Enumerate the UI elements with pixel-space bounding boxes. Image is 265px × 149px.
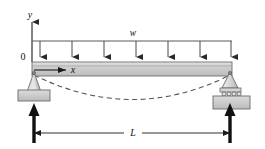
span-length-label: L: [129, 127, 136, 138]
roller-1: [222, 92, 226, 96]
right-roller-support: [213, 71, 250, 109]
left-support-base: [18, 90, 50, 101]
beam-diagram-figure: y 0 w x: [0, 0, 265, 149]
left-reaction-arrowhead: [29, 103, 40, 116]
y-axis-label: y: [27, 9, 33, 20]
distributed-load-group: [32, 41, 232, 57]
beam-body: [32, 62, 232, 76]
roller-support-hinge: [228, 71, 231, 74]
beam: [32, 62, 232, 76]
roller-2: [227, 92, 231, 96]
distributed-load-label: w: [130, 28, 137, 38]
origin-label: 0: [21, 51, 26, 62]
pin-support-hinge: [32, 71, 35, 74]
roller-3: [232, 92, 236, 96]
deflection-curve: [34, 75, 230, 100]
roller-4: [237, 92, 241, 96]
roller-support-plate: [220, 88, 241, 92]
x-axis-label: x: [70, 64, 76, 75]
